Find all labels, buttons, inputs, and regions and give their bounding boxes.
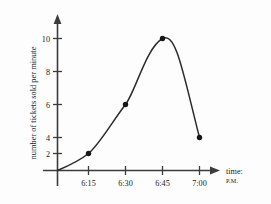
y-tick-label-6: 6 — [46, 101, 50, 110]
x-axis-subtitle: P.M. — [226, 177, 238, 184]
data-point-700 — [197, 135, 202, 140]
ticket-sales-curve — [58, 38, 200, 171]
y-tick-label-10: 10 — [42, 35, 50, 44]
y-tick-label-2: 2 — [46, 150, 50, 159]
x-axis-arrow-icon — [210, 167, 220, 175]
chart-figure: 10 8 6 4 2 6:15 6:30 6:45 7:00 number of… — [0, 0, 271, 204]
x-tick-label-645: 6:45 — [155, 179, 170, 188]
y-tick-label-8: 8 — [46, 68, 50, 77]
data-point-630 — [123, 102, 128, 107]
x-tick-label-700: 7:00 — [192, 179, 207, 188]
y-axis-title: number of tickets sold per minute — [29, 46, 38, 159]
x-axis-title: time: — [226, 167, 243, 176]
line-chart-canvas: 10 8 6 4 2 6:15 6:30 6:45 7:00 number of… — [0, 0, 271, 204]
y-tick-label-4: 4 — [46, 134, 50, 143]
x-tick-label-615: 6:15 — [81, 179, 96, 188]
data-point-615 — [86, 151, 91, 156]
y-axis-arrow-icon — [54, 14, 62, 24]
data-point-645 — [160, 36, 165, 41]
x-tick-label-630: 6:30 — [118, 179, 133, 188]
